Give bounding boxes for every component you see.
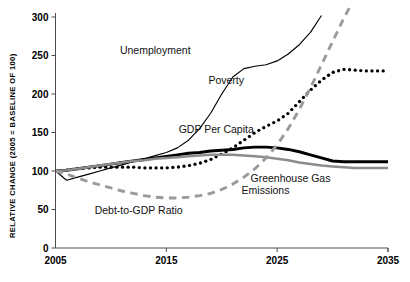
x-tick-label: 2025: [266, 255, 289, 266]
label-greenhouse-gas-emissions-line1: Greenhouse Gas: [250, 172, 330, 184]
series-dot: [262, 126, 265, 129]
chart-background: [0, 0, 410, 282]
series-dot: [332, 71, 335, 74]
series-dot: [115, 166, 118, 169]
series-dot: [188, 164, 191, 167]
series-dot: [272, 121, 275, 124]
y-tick-label: 150: [32, 127, 49, 138]
series-dot: [257, 129, 260, 132]
series-dot: [382, 69, 385, 72]
label-gdp-per-capita: GDP Per Capita: [179, 123, 254, 135]
series-dot: [193, 163, 196, 166]
series-dot: [282, 115, 285, 118]
series-dot: [199, 161, 202, 164]
label-debt-to-gdp-ratio: Debt-to-GDP Ratio: [95, 204, 183, 216]
series-dot: [132, 166, 135, 169]
x-tick-label: 2015: [155, 255, 178, 266]
x-tick-label: 2005: [44, 255, 67, 266]
y-tick-label: 200: [32, 89, 49, 100]
series-dot: [182, 165, 185, 168]
series-dot: [267, 123, 270, 126]
series-dot: [243, 138, 246, 141]
y-tick-label: 100: [32, 166, 49, 177]
series-dot: [110, 166, 113, 169]
series-dot: [290, 108, 293, 111]
series-dot: [204, 160, 207, 163]
series-dot: [348, 68, 351, 71]
series-dot: [359, 69, 362, 72]
chart-container: RELATIVE CHANGE (2005 = BASELINE OF 100)…: [0, 0, 410, 282]
series-dot: [302, 96, 305, 99]
y-tick-label: 50: [37, 204, 49, 215]
series-dot: [239, 141, 242, 144]
y-tick-label: 300: [32, 12, 49, 23]
series-dot: [298, 100, 301, 103]
x-tick-label: 2035: [377, 255, 400, 266]
series-dot: [376, 69, 379, 72]
series-dot: [160, 166, 163, 169]
series-dot: [121, 166, 124, 169]
series-dot: [126, 166, 129, 169]
series-dot: [143, 166, 146, 169]
series-dot: [318, 80, 321, 83]
series-dot: [277, 118, 280, 121]
series-dot: [171, 166, 174, 169]
series-dot: [209, 158, 212, 161]
series-dot: [337, 69, 340, 72]
series-dot: [166, 166, 169, 169]
series-dot: [322, 77, 325, 80]
series-dot: [138, 166, 141, 169]
series-dot: [370, 69, 373, 72]
series-dot: [248, 135, 251, 138]
label-poverty: Poverty: [208, 74, 244, 86]
series-dot: [154, 166, 157, 169]
label-unemployment: Unemployment: [120, 44, 191, 56]
y-tick-label: 0: [43, 243, 49, 254]
series-dot: [286, 112, 289, 115]
series-dot: [354, 69, 357, 72]
series-dot: [149, 166, 152, 169]
y-axis-title-text: RELATIVE CHANGE (2005 = BASELINE OF 100): [8, 53, 17, 238]
series-dot: [294, 104, 297, 107]
series-dot: [342, 68, 345, 71]
series-dot: [365, 69, 368, 72]
series-dot: [177, 165, 180, 168]
y-axis-title: RELATIVE CHANGE (2005 = BASELINE OF 100): [8, 53, 17, 238]
series-dot: [327, 74, 330, 77]
relative-change-line-chart: RELATIVE CHANGE (2005 = BASELINE OF 100)…: [0, 0, 410, 282]
label-greenhouse-gas-emissions-line2: Emissions: [242, 184, 290, 196]
series-dot: [234, 144, 237, 147]
series-dot: [314, 84, 317, 87]
y-tick-label: 250: [32, 50, 49, 61]
